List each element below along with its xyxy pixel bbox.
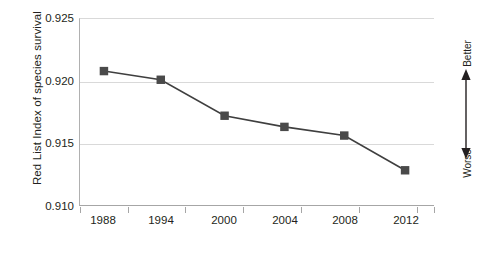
data-point-marker <box>220 112 228 120</box>
data-point-marker <box>157 76 165 84</box>
x-tick-mark <box>243 207 244 213</box>
annotation-better-label: Better <box>462 40 473 67</box>
y-tick-label: 0.925 <box>30 12 74 24</box>
y-tick-label: 0.910 <box>30 200 74 212</box>
x-tick-label: 2012 <box>393 214 419 226</box>
data-point-marker <box>340 131 348 139</box>
x-tick-label: 2000 <box>211 214 237 226</box>
plot-area <box>79 18 434 206</box>
x-tick-label: 2004 <box>272 214 298 226</box>
x-tick-label: 1994 <box>148 214 174 226</box>
data-series-line <box>80 19 434 205</box>
data-point-marker <box>401 166 409 174</box>
data-point-marker <box>100 67 108 75</box>
annotation-worse-label: Worse <box>462 149 473 178</box>
direction-annotation: Better Worse <box>452 18 482 208</box>
x-tick-mark <box>128 207 129 213</box>
x-tick-label: 1988 <box>90 214 116 226</box>
y-tick-label: 0.915 <box>30 137 74 149</box>
series-polyline <box>104 71 405 170</box>
x-tick-mark <box>417 207 418 213</box>
y-tick-label: 0.920 <box>30 75 74 87</box>
double-arrow-icon <box>456 68 476 160</box>
data-point-marker <box>280 123 288 131</box>
chart-figure: Red List Index of species survival 0.910… <box>0 0 488 265</box>
x-tick-mark <box>80 207 81 213</box>
x-tick-label: 2008 <box>332 214 358 226</box>
x-tick-mark <box>301 207 302 213</box>
x-tick-mark <box>185 207 186 213</box>
y-axis-tick-labels: 0.910 0.915 0.920 0.925 <box>26 0 74 265</box>
x-tick-mark <box>359 207 360 213</box>
x-tick-mark <box>434 207 435 213</box>
